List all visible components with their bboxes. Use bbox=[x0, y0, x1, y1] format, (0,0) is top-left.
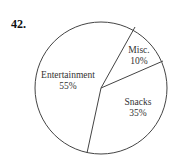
label-name: Entertainment bbox=[38, 70, 98, 81]
slice-label-entertainment: Entertainment 55% bbox=[38, 70, 98, 92]
label-pct: 55% bbox=[38, 81, 98, 92]
slice-label-snacks: Snacks 35% bbox=[118, 97, 158, 119]
slice-label-misc: Misc. 10% bbox=[124, 45, 154, 67]
label-name: Misc. bbox=[124, 45, 154, 56]
label-name: Snacks bbox=[118, 97, 158, 108]
label-pct: 10% bbox=[124, 56, 154, 67]
label-pct: 35% bbox=[118, 108, 158, 119]
